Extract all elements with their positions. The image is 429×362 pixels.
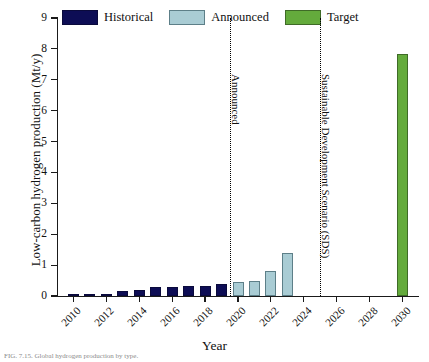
- bar-historical-2014: [134, 290, 145, 296]
- bar-historical-2018: [200, 286, 211, 297]
- figure-container: Historical Announced Target 0123456789 2…: [0, 0, 429, 362]
- reference-line: [230, 18, 231, 296]
- x-axis-tick: [237, 296, 238, 302]
- bar-historical-2012: [101, 294, 112, 296]
- x-axis-tick-label: 2024: [280, 305, 313, 338]
- reference-line-label: Announced: [230, 74, 241, 125]
- x-axis-label: Year: [0, 338, 429, 354]
- bar-historical-2019: [216, 284, 227, 296]
- x-axis-tick: [172, 296, 173, 302]
- bar-historical-2011: [84, 294, 95, 296]
- x-axis-tick: [204, 296, 205, 302]
- x-axis-tick: [270, 296, 271, 302]
- bar-historical-2013: [117, 291, 128, 296]
- y-axis-label: Low-carbon hydrogen production (Mt/y): [28, 20, 44, 300]
- x-axis-tick-label: 2012: [83, 305, 116, 338]
- x-axis-tick-label: 2018: [182, 305, 215, 338]
- x-axis-tick: [106, 296, 107, 302]
- bar-announced-2020: [233, 282, 244, 296]
- x-axis-tick: [73, 296, 74, 302]
- x-axis-tick: [402, 296, 403, 302]
- x-axis-tick-label: 2020: [215, 305, 248, 338]
- bar-announced-2021: [249, 281, 260, 296]
- bar-target-2030: [397, 54, 408, 296]
- bar-historical-2016: [167, 287, 178, 296]
- bar-announced-2023: [282, 253, 293, 296]
- x-axis-tick: [139, 296, 140, 302]
- x-axis-tick: [303, 296, 304, 302]
- bar-historical-2017: [183, 286, 194, 296]
- bar-historical-2010: [68, 294, 79, 296]
- x-axis-tick-label: 2026: [313, 305, 346, 338]
- bar-announced-2022: [265, 271, 276, 296]
- x-axis-tick-label: 2016: [149, 305, 182, 338]
- x-axis-tick: [336, 296, 337, 302]
- x-axis-tick-label: 2030: [379, 305, 412, 338]
- bar-historical-2015: [150, 287, 161, 296]
- x-axis-tick: [369, 296, 370, 302]
- figure-caption: FIG. 7.15. Global hydrogen production by…: [4, 353, 424, 361]
- x-axis-tick-label: 2022: [247, 305, 280, 338]
- plot-area: AnnouncedSustainable Development Scenari…: [57, 18, 419, 296]
- x-axis-tick-label: 2010: [50, 305, 83, 338]
- x-axis-tick-label: 2014: [116, 305, 149, 338]
- x-axis-tick-label: 2028: [346, 305, 379, 338]
- reference-line-label: Sustainable Development Scenario (SDS): [320, 74, 331, 258]
